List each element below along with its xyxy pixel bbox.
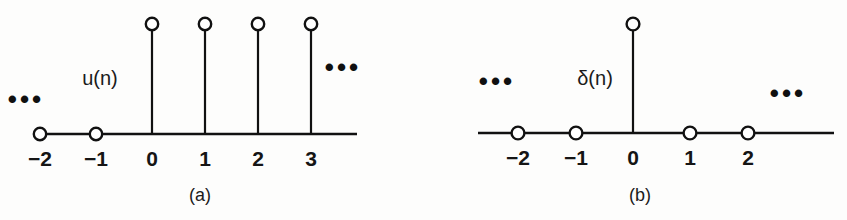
- panel-unit-impulse: δ(n) ••• ••• −2 −1 0 1 2 (b): [424, 0, 847, 220]
- tick-label-b-one: 1: [684, 147, 696, 168]
- marker-n-minus2: [34, 128, 46, 140]
- marker-b-n-minus2: [512, 127, 525, 140]
- tick-label-b-minus1: −1: [564, 147, 588, 168]
- marker-b-n-minus1: [570, 127, 583, 140]
- stems-a: [152, 31, 311, 134]
- right-ellipsis-a: •••: [325, 54, 361, 80]
- marker-b-n0: [627, 18, 640, 31]
- left-ellipsis-b: •••: [479, 68, 515, 94]
- tick-label-a-minus1: −1: [84, 148, 108, 169]
- panel-unit-step: u(n) ••• ••• −2 −1 0 1 2 3 (a): [0, 0, 424, 220]
- marker-b-n1: [684, 127, 697, 140]
- tick-label-b-zero: 0: [627, 147, 639, 168]
- figure-container: u(n) ••• ••• −2 −1 0 1 2 3 (a): [0, 0, 847, 220]
- markers-value-one-a: [146, 18, 317, 30]
- caption-a: (a): [189, 186, 211, 204]
- marker-n2: [252, 18, 264, 30]
- tick-label-a-two: 2: [252, 148, 264, 169]
- marker-n1: [199, 18, 211, 30]
- tick-label-a-minus2: −2: [28, 148, 52, 169]
- tick-label-a-three: 3: [305, 148, 317, 169]
- tick-label-a-zero: 0: [146, 148, 158, 169]
- series-label-delta-n: δ(n): [577, 68, 613, 88]
- marker-n0: [146, 18, 158, 30]
- tick-label-b-minus2: −2: [506, 147, 530, 168]
- tick-label-a-one: 1: [199, 148, 211, 169]
- markers-value-one-b: [627, 18, 640, 31]
- marker-n-minus1: [90, 128, 102, 140]
- tick-label-b-two: 2: [742, 147, 754, 168]
- unit-step-stem-plot: [0, 0, 424, 220]
- right-ellipsis-b: •••: [770, 80, 806, 106]
- series-label-un: u(n): [82, 68, 118, 88]
- left-ellipsis-a: •••: [8, 86, 44, 112]
- caption-b: (b): [629, 186, 651, 204]
- marker-n3: [305, 18, 317, 30]
- marker-b-n2: [742, 127, 755, 140]
